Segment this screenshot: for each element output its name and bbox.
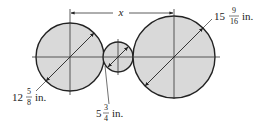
tangent-circles-diagram: x 12 5 8 in. 5 3 4 in. 15 9 16 in.: [0, 0, 266, 126]
svg-text:9: 9: [232, 6, 236, 15]
svg-text:12: 12: [12, 91, 23, 103]
left-leader-line: [36, 81, 46, 91]
svg-text:5: 5: [27, 87, 31, 96]
distance-label: x: [118, 6, 124, 18]
svg-text:16: 16: [230, 17, 238, 26]
svg-text:in.: in.: [242, 10, 254, 22]
middle-diameter-label: 5 3 4 in.: [96, 103, 124, 123]
right-leader-line: [203, 19, 212, 28]
svg-text:in.: in.: [112, 107, 124, 119]
svg-text:3: 3: [104, 103, 108, 112]
middle-leader-line: [105, 66, 109, 104]
svg-text:15: 15: [214, 10, 226, 22]
right-diameter-label: 15 9 16 in.: [214, 6, 254, 26]
svg-text:4: 4: [104, 114, 108, 123]
svg-text:in.: in.: [35, 91, 47, 103]
svg-text:5: 5: [96, 107, 102, 119]
left-diameter-label: 12 5 8 in.: [12, 87, 47, 107]
svg-text:8: 8: [27, 98, 31, 107]
